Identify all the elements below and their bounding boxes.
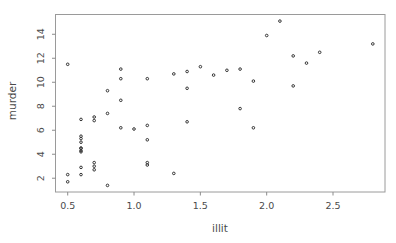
y-tick-label: 14 <box>35 28 46 40</box>
data-point <box>120 68 123 71</box>
data-point <box>133 128 136 131</box>
data-point <box>372 43 375 46</box>
data-point <box>226 69 229 72</box>
data-point <box>252 80 255 83</box>
data-point <box>66 63 69 66</box>
x-tick-label: 2.0 <box>259 200 274 211</box>
data-point <box>292 55 295 58</box>
y-tick-label: 4 <box>35 151 46 157</box>
data-point <box>93 161 96 164</box>
data-point <box>93 116 96 119</box>
data-point <box>212 74 215 77</box>
data-point <box>120 127 123 130</box>
data-point <box>305 62 308 65</box>
x-tick-label: 0.5 <box>60 200 75 211</box>
y-tick-label: 6 <box>35 127 46 133</box>
x-axis-label: illit <box>55 222 385 234</box>
data-point <box>186 87 189 90</box>
y-tick-label: 2 <box>35 175 46 181</box>
y-tick-label: 12 <box>35 52 46 64</box>
data-point <box>93 169 96 172</box>
data-point <box>279 20 282 23</box>
data-point <box>106 89 109 92</box>
data-point <box>146 77 149 80</box>
data-point <box>186 70 189 73</box>
data-point <box>120 77 123 80</box>
data-point <box>239 68 242 71</box>
data-point <box>252 127 255 130</box>
data-point <box>66 173 69 176</box>
plot-frame <box>56 15 386 193</box>
y-axis-label: murder <box>6 71 18 131</box>
scatter-plot-canvas: 0.51.01.52.02.52468101214 <box>0 0 396 243</box>
data-point <box>173 172 176 175</box>
data-point <box>93 119 96 122</box>
data-point <box>173 73 176 76</box>
y-tick-label: 8 <box>35 103 46 109</box>
y-tick-label: 10 <box>35 76 46 88</box>
data-point <box>80 166 83 169</box>
data-point <box>80 135 83 138</box>
x-tick-label: 1.5 <box>193 200 208 211</box>
x-tick-label: 1.0 <box>126 200 141 211</box>
data-point <box>80 141 83 144</box>
data-point <box>80 118 83 121</box>
data-point <box>93 165 96 168</box>
data-point <box>106 184 109 187</box>
data-point <box>239 107 242 110</box>
data-point <box>292 85 295 88</box>
data-point <box>106 112 109 115</box>
data-point <box>146 124 149 127</box>
data-point <box>186 121 189 124</box>
data-point <box>318 51 321 54</box>
x-tick-label: 2.5 <box>325 200 340 211</box>
data-point <box>146 139 149 142</box>
data-point <box>66 181 69 184</box>
data-point <box>146 161 149 164</box>
scatter-figure: 0.51.01.52.02.52468101214 illit murder <box>0 0 396 243</box>
data-point <box>199 65 202 68</box>
data-point <box>80 173 83 176</box>
data-point <box>265 34 268 37</box>
data-point <box>120 99 123 102</box>
